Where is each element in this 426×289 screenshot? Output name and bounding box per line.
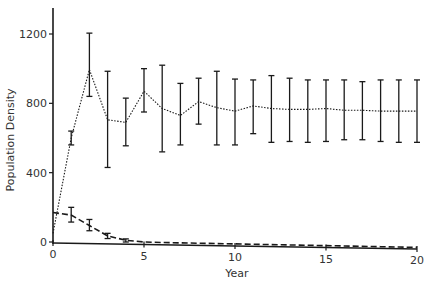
x-tick-label: 5 (141, 250, 148, 263)
y-tick-label: 0 (40, 236, 47, 249)
x-tick-label: 20 (410, 254, 424, 267)
series-lower (53, 207, 417, 247)
line-chart: 0400800120005101520 Year Population Dens… (0, 0, 426, 289)
y-axis-title: Population Density (4, 88, 17, 192)
series-upper (53, 33, 420, 233)
data-series (53, 33, 420, 247)
x-tick-label: 15 (319, 253, 333, 266)
x-tick-label: 10 (228, 251, 242, 264)
y-tick-label: 1200 (19, 28, 47, 41)
y-tick-label: 800 (26, 97, 47, 110)
x-axis-title: Year (224, 267, 249, 280)
x-tick-label: 0 (50, 248, 57, 261)
axes: 0400800120005101520 (19, 8, 424, 267)
y-tick-label: 400 (26, 167, 47, 180)
series-line (53, 213, 417, 248)
